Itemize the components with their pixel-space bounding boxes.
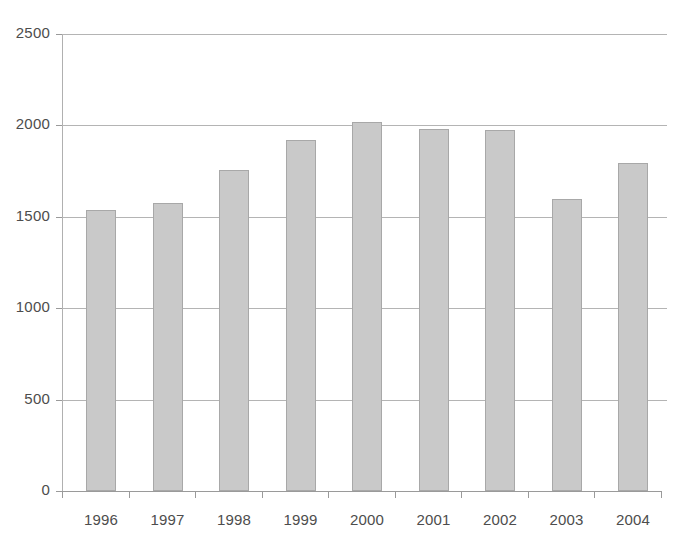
x-axis-label-2001: 2001 [401, 511, 467, 528]
x-axis-tick-end [661, 491, 662, 498]
x-axis-tick-3 [262, 491, 263, 498]
y-axis-tick-1000 [56, 308, 62, 309]
x-axis-tick-0 [62, 491, 63, 498]
bar-1997 [153, 203, 183, 491]
gridline-2500 [62, 34, 667, 35]
y-axis-label-2500: 2500 [16, 24, 50, 41]
bar-2000 [352, 122, 382, 491]
y-axis-label-1000: 1000 [16, 298, 50, 315]
bar-1999 [286, 140, 316, 491]
bar-2001 [419, 129, 449, 491]
bar-chart: 0500100015002000250019961997199819992000… [0, 0, 685, 557]
x-axis-label-2000: 2000 [334, 511, 400, 528]
x-axis-label-1999: 1999 [268, 511, 334, 528]
gridline-0 [62, 491, 662, 492]
x-axis-label-1998: 1998 [201, 511, 267, 528]
plot-area [62, 34, 667, 491]
x-axis-label-2002: 2002 [467, 511, 533, 528]
x-axis-label-2004: 2004 [600, 511, 666, 528]
bar-2002 [485, 130, 515, 491]
y-axis-label-0: 0 [41, 481, 50, 498]
x-axis-tick-4 [328, 491, 329, 498]
bar-2004 [618, 163, 648, 491]
y-axis-tick-2000 [56, 125, 62, 126]
y-axis-label-500: 500 [24, 390, 50, 407]
x-axis-tick-8 [594, 491, 595, 498]
x-axis-tick-5 [395, 491, 396, 498]
x-axis-tick-2 [195, 491, 196, 498]
x-axis-tick-1 [129, 491, 130, 498]
bar-1998 [219, 170, 249, 491]
bar-2003 [552, 199, 582, 491]
x-axis-label-1997: 1997 [135, 511, 201, 528]
x-axis-tick-7 [528, 491, 529, 498]
y-axis-tick-1500 [56, 217, 62, 218]
x-axis-label-1996: 1996 [68, 511, 134, 528]
y-axis-tick-500 [56, 400, 62, 401]
bar-1996 [86, 210, 116, 491]
y-axis-label-2000: 2000 [16, 115, 50, 132]
x-axis-tick-6 [461, 491, 462, 498]
y-axis-tick-2500 [56, 34, 62, 35]
y-axis-label-1500: 1500 [16, 207, 50, 224]
x-axis-label-2003: 2003 [534, 511, 600, 528]
